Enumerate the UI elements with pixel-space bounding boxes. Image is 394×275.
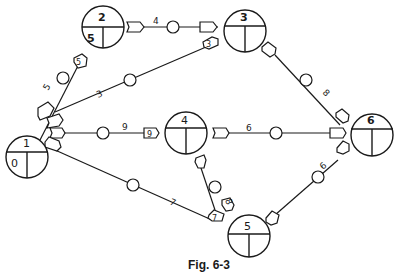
tag-shape-2-3-head (200, 22, 217, 32)
edge-label-4-6: 6 (246, 123, 252, 133)
midpoint-circle-2-3 (167, 21, 179, 33)
node-4: 4 (165, 112, 207, 154)
tag-shape-1-5-tail (45, 137, 61, 151)
midpoint-circle-1-3 (124, 74, 136, 86)
midpoint-circle-3-6 (300, 74, 312, 86)
edge-label-1-3: 3 (95, 88, 104, 99)
tag-shape-4-5-tail (195, 155, 206, 168)
midpoint-circle-1-4 (97, 127, 109, 139)
edge-label-1-4: 9 (122, 122, 128, 132)
node-3: 3 (224, 10, 266, 52)
node-1-label: 1 (23, 137, 30, 150)
edge-tag-label-1-4: 9 (147, 130, 152, 139)
midpoint-circle-1-5 (127, 179, 139, 191)
node-1-earliest-time: 0 (11, 157, 18, 170)
node-6: 6 (351, 114, 393, 156)
figure-caption: Fig. 6-3 (188, 258, 230, 272)
edge-label-3-6: 8 (321, 87, 332, 98)
tag-shape-3-6-tail (262, 42, 276, 57)
node-3-label: 3 (240, 11, 248, 24)
node-5: 5 (228, 215, 270, 257)
node-2: 2 5 (82, 6, 124, 48)
tag-shape-1-4-tail (50, 128, 65, 138)
edge-5-6 (275, 160, 338, 215)
network-diagram: 5 5 3 3 9 9 7 7 4 8 6 8 6 1 0 2 5 (0, 0, 394, 275)
tag-shape-4-6-head (330, 128, 346, 138)
tag-shape-3-6-head (336, 109, 349, 123)
edge-label-1-2: 5 (41, 82, 53, 92)
edge-tag-label-1-3: 3 (206, 40, 211, 49)
tag-shape-5-6-head (337, 141, 349, 154)
node-2-earliest-time: 5 (87, 32, 95, 45)
midpoint-circle-4-5 (209, 181, 221, 193)
node-6-label: 6 (367, 114, 375, 127)
node-1: 1 0 (6, 136, 48, 178)
node-5-label: 5 (244, 220, 251, 233)
tag-shape-2-3-tail (127, 22, 144, 32)
midpoint-circle-1-2 (57, 72, 69, 84)
midpoint-circle-5-6 (312, 171, 324, 183)
node-2-label: 2 (98, 11, 106, 24)
edge-tag-label-1-2: 5 (76, 58, 81, 67)
node-4-label: 4 (181, 114, 188, 127)
edge-label-1-5: 7 (168, 197, 177, 208)
tag-shape-4-6-tail (213, 128, 229, 138)
edge-label-2-3: 4 (153, 16, 159, 26)
edge-tag-label-1-5: 7 (212, 214, 217, 223)
midpoint-circle-4-6 (270, 127, 282, 139)
